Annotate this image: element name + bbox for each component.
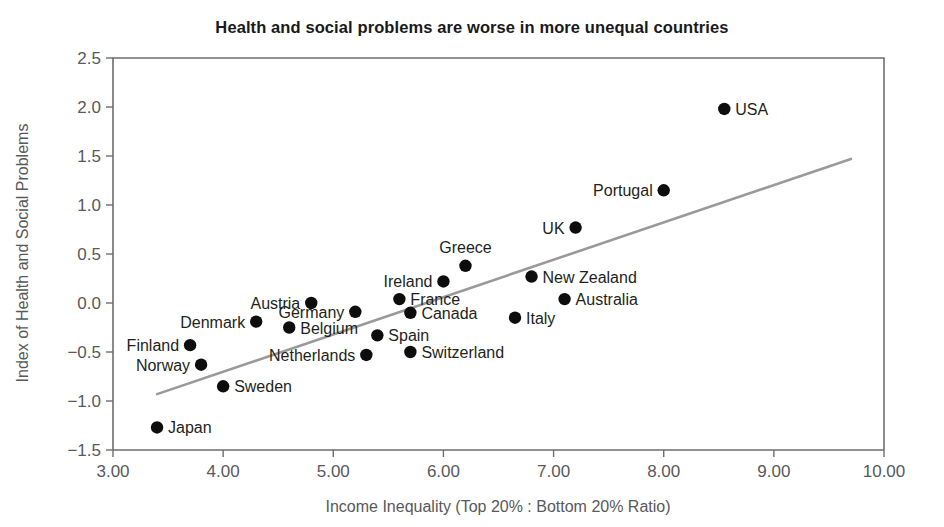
data-point: Netherlands bbox=[269, 347, 372, 364]
data-point-marker bbox=[195, 359, 207, 371]
data-point-label: New Zealand bbox=[543, 269, 637, 286]
y-axis-ticks: 2.52.01.51.00.50.0−0.5−1.0−1.5 bbox=[67, 49, 113, 460]
y-tick-label: 1.0 bbox=[77, 196, 101, 215]
data-point: Norway bbox=[136, 357, 207, 374]
data-point-label: Belgium bbox=[300, 320, 358, 337]
data-point-label: USA bbox=[735, 101, 768, 118]
data-point-label: Switzerland bbox=[421, 344, 504, 361]
x-tick-label: 9.00 bbox=[757, 462, 790, 481]
data-point: Ireland bbox=[384, 273, 450, 290]
data-point-marker bbox=[360, 349, 372, 361]
data-point-label: Italy bbox=[526, 310, 555, 327]
data-point-label: Spain bbox=[388, 327, 429, 344]
data-point-label: Germany bbox=[279, 304, 345, 321]
data-point-marker bbox=[283, 321, 295, 333]
data-point-marker bbox=[371, 329, 383, 341]
data-point: Germany bbox=[279, 304, 362, 321]
y-tick-label: 2.0 bbox=[77, 98, 101, 117]
data-point-label: Norway bbox=[136, 357, 190, 374]
data-point-label: Ireland bbox=[384, 273, 433, 290]
data-point-marker bbox=[525, 270, 537, 282]
data-point-marker bbox=[151, 421, 163, 433]
data-point: New Zealand bbox=[525, 269, 636, 286]
x-tick-label: 4.00 bbox=[207, 462, 240, 481]
y-tick-label: −1.5 bbox=[67, 441, 101, 460]
data-point-marker bbox=[509, 312, 521, 324]
data-point: UK bbox=[542, 220, 581, 237]
data-point: Finland bbox=[127, 337, 197, 354]
x-tick-label: 3.00 bbox=[96, 462, 129, 481]
data-point-label: Finland bbox=[127, 337, 179, 354]
data-point-marker bbox=[217, 380, 229, 392]
data-point-marker bbox=[250, 315, 262, 327]
y-tick-label: 1.5 bbox=[77, 147, 101, 166]
data-point-marker bbox=[404, 346, 416, 358]
data-point-label: Netherlands bbox=[269, 347, 355, 364]
data-point: Italy bbox=[509, 310, 556, 327]
data-point-marker bbox=[569, 221, 581, 233]
y-tick-label: −0.5 bbox=[67, 343, 101, 362]
data-point-marker bbox=[393, 293, 405, 305]
data-point: Greece bbox=[439, 239, 492, 272]
data-point-marker bbox=[349, 306, 361, 318]
data-point-label: Greece bbox=[439, 239, 492, 256]
chart-page: Health and social problems are worse in … bbox=[0, 0, 944, 527]
data-points-layer: JapanFinlandNorwaySwedenDenmarkBelgiumAu… bbox=[127, 101, 769, 437]
data-point: Belgium bbox=[283, 320, 358, 337]
data-point-label: Australia bbox=[576, 291, 638, 308]
data-point-label: Canada bbox=[421, 305, 477, 322]
data-point: Denmark bbox=[180, 314, 262, 331]
y-tick-label: 2.5 bbox=[77, 49, 101, 68]
data-point-label: Japan bbox=[168, 419, 212, 436]
y-axis-title: Index of Health and Social Problems bbox=[14, 124, 31, 383]
data-point: Spain bbox=[371, 327, 429, 344]
data-point-marker bbox=[718, 103, 730, 115]
y-tick-label: −1.0 bbox=[67, 392, 101, 411]
x-axis-title: Income Inequality (Top 20% : Bottom 20% … bbox=[325, 498, 670, 515]
data-point: Australia bbox=[558, 291, 638, 308]
data-point: Switzerland bbox=[404, 344, 504, 361]
x-tick-label: 6.00 bbox=[427, 462, 460, 481]
x-tick-label: 7.00 bbox=[537, 462, 570, 481]
data-point: Sweden bbox=[217, 378, 292, 395]
data-point-marker bbox=[404, 307, 416, 319]
x-tick-label: 5.00 bbox=[317, 462, 350, 481]
plot-frame bbox=[113, 58, 884, 450]
data-point-label: Sweden bbox=[234, 378, 292, 395]
data-point-marker bbox=[459, 260, 471, 272]
data-point: USA bbox=[718, 101, 768, 118]
data-point-marker bbox=[437, 275, 449, 287]
data-point: Japan bbox=[151, 419, 212, 436]
data-point-label: Denmark bbox=[180, 314, 246, 331]
data-point-marker bbox=[184, 339, 196, 351]
x-tick-label: 8.00 bbox=[647, 462, 680, 481]
y-tick-label: 0.0 bbox=[77, 294, 101, 313]
scatter-plot: Index of Health and Social Problems Inco… bbox=[0, 0, 944, 527]
x-tick-label: 10.00 bbox=[863, 462, 906, 481]
data-point: Portugal bbox=[593, 182, 670, 199]
data-point-marker bbox=[658, 184, 670, 196]
data-point-label: Portugal bbox=[593, 182, 653, 199]
x-axis-ticks: 3.004.005.006.007.008.009.0010.00 bbox=[96, 450, 905, 481]
y-tick-label: 0.5 bbox=[77, 245, 101, 264]
data-point-label: UK bbox=[542, 220, 565, 237]
data-point-marker bbox=[558, 293, 570, 305]
